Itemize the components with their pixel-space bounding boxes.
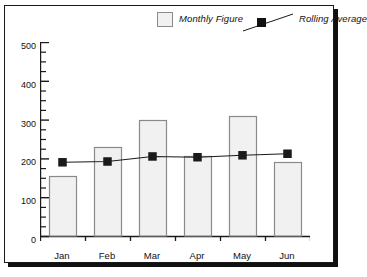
y-axis-tick-labels: 500 400 300 200 100 0	[7, 42, 36, 248]
rolling-average-marker-apr	[193, 153, 202, 162]
chart-card: Monthly Figure Rolling Average 500 400 3…	[4, 5, 334, 263]
rolling-average-marker-may	[238, 151, 247, 160]
bar-jan	[50, 177, 77, 237]
bar-may	[230, 117, 257, 237]
rolling-average-marker-mar	[148, 152, 157, 161]
x-axis-tick-labels: Jan Feb Mar Apr May Jun	[40, 250, 310, 264]
rolling-average-marker-feb	[103, 157, 112, 166]
x-tick-label-mar: Mar	[129, 250, 175, 261]
y-axis-ticks	[41, 43, 49, 237]
x-tick-label-feb: Feb	[84, 250, 130, 261]
rolling-average-marker-jan	[58, 158, 67, 167]
y-tick-label-100: 100	[10, 197, 36, 206]
bar-mar	[140, 121, 167, 237]
y-tick-label-500: 500	[10, 42, 36, 51]
chart-canvas	[40, 42, 310, 242]
y-tick-label-300: 300	[10, 120, 36, 129]
legend-label-monthly-figure: Monthly Figure	[179, 13, 243, 24]
plot-area	[40, 42, 310, 242]
x-tick-label-jan: Jan	[39, 250, 85, 261]
axis-spines	[40, 42, 310, 237]
y-tick-label-200: 200	[10, 158, 36, 167]
y-tick-label-400: 400	[10, 81, 36, 90]
x-tick-label-apr: Apr	[174, 250, 220, 261]
y-tick-label-0: 0	[10, 236, 36, 245]
line-marker-icon	[241, 11, 297, 33]
rolling-average-marker-jun	[283, 149, 292, 158]
chart-legend: Monthly Figure Rolling Average	[5, 9, 333, 35]
bar-jun	[275, 163, 302, 237]
x-tick-label-may: May	[219, 250, 265, 261]
bar-apr	[185, 157, 212, 237]
bar-series-monthly-figure	[50, 117, 302, 237]
x-tick-label-jun: Jun	[264, 250, 310, 261]
legend-label-rolling-average: Rolling Average	[299, 13, 367, 24]
bar-swatch-icon	[157, 12, 173, 27]
